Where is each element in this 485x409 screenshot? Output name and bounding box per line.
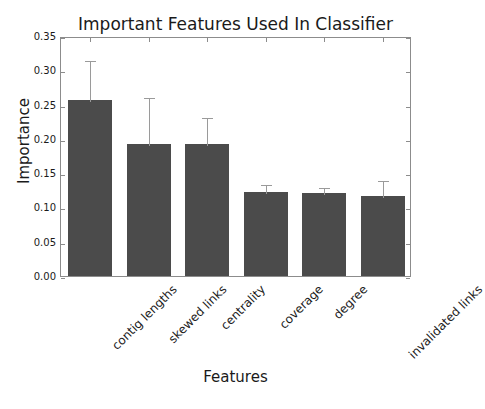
chart-title: Important Features Used In Classifier: [60, 14, 411, 34]
x-tick-label: invalidated links: [406, 283, 485, 362]
y-tick-label: 0.30: [4, 66, 56, 76]
error-bar-line: [207, 118, 208, 146]
error-bar-cap: [202, 118, 213, 119]
x-tick-label: contig lengths: [110, 283, 180, 353]
error-bar-cap: [319, 188, 330, 189]
error-bar-cap: [144, 98, 155, 99]
y-tick-label: 0.05: [4, 238, 56, 248]
error-bar-line: [324, 188, 325, 195]
error-bars-layer: [61, 38, 410, 276]
error-bar-line: [266, 185, 267, 193]
plot-area: [60, 37, 411, 277]
x-tick-label: degree: [332, 283, 371, 322]
y-tick-label: 0.20: [4, 135, 56, 145]
error-bar-cap: [85, 61, 96, 62]
error-bar-line: [149, 98, 150, 146]
y-axis-tick-labels: 0.000.050.100.150.200.250.300.35: [0, 37, 56, 277]
error-bar-line: [90, 61, 91, 103]
error-bar-cap: [378, 181, 389, 182]
error-bar-line: [383, 181, 384, 198]
x-tick-label: coverage: [277, 283, 326, 332]
y-tick-label: 0.15: [4, 169, 56, 179]
y-tick-label: 0.25: [4, 101, 56, 111]
y-tick-label: 0.10: [4, 203, 56, 213]
error-bar-cap: [261, 185, 272, 186]
x-axis-label: Features: [60, 369, 411, 386]
y-tick-label: 0.35: [4, 32, 56, 42]
x-axis-tick-labels: contig lengthsskewed linkscentralitycove…: [0, 277, 429, 367]
